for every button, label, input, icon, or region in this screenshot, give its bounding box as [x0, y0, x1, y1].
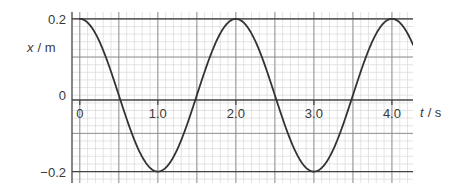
- y-tick-label: 0: [59, 88, 66, 103]
- x-tick-label: 4.0: [383, 106, 401, 121]
- x-axis-label: t/ s: [420, 105, 442, 120]
- y-axis-label: x/ m: [26, 40, 56, 55]
- y-axis-label-unit: / m: [38, 40, 56, 55]
- x-tick-label: 0: [76, 106, 83, 121]
- y-tick-label: 0.2: [48, 12, 66, 27]
- y-tick-label: −0.2: [40, 165, 66, 180]
- x-axis-label-unit: / s: [428, 105, 442, 120]
- y-axis-label-symbol: x: [26, 40, 34, 55]
- x-tick-label: 3.0: [305, 106, 323, 121]
- x-tick-label: 1.0: [149, 106, 167, 121]
- displacement-time-graph: 01.02.03.04.0 0.20−0.2 x/ m t/ s: [0, 0, 453, 193]
- x-tick-label: 2.0: [227, 106, 245, 121]
